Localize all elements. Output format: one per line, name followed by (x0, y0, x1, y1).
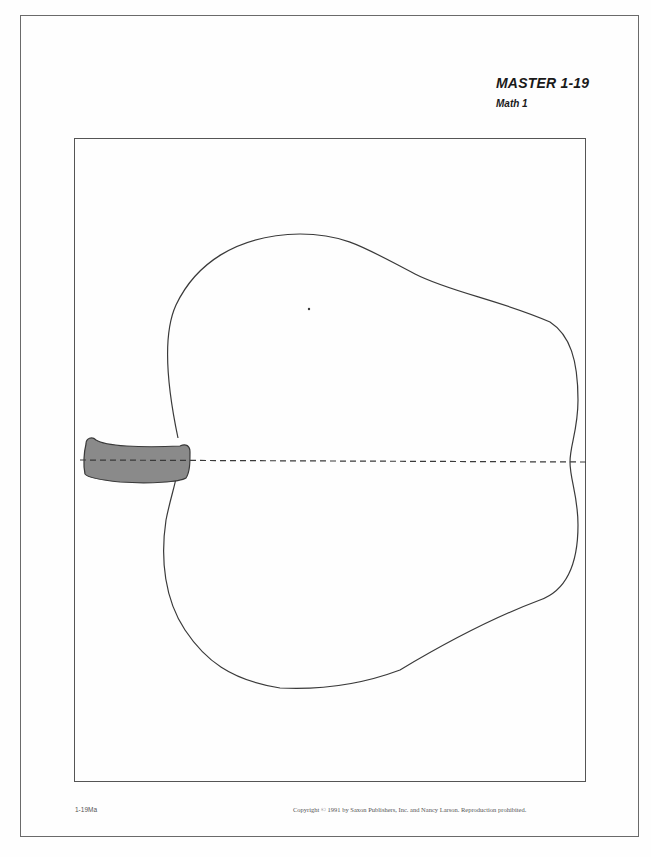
worksheet-page: MASTER 1-19 Math 1 1-19Ma Copyright © 19… (0, 0, 651, 857)
master-code: 1-19Ma (75, 806, 97, 813)
copyright-notice: Copyright © 1991 by Saxon Publishers, In… (293, 806, 526, 813)
center-dot (308, 308, 310, 310)
apple-drawing (0, 0, 651, 857)
